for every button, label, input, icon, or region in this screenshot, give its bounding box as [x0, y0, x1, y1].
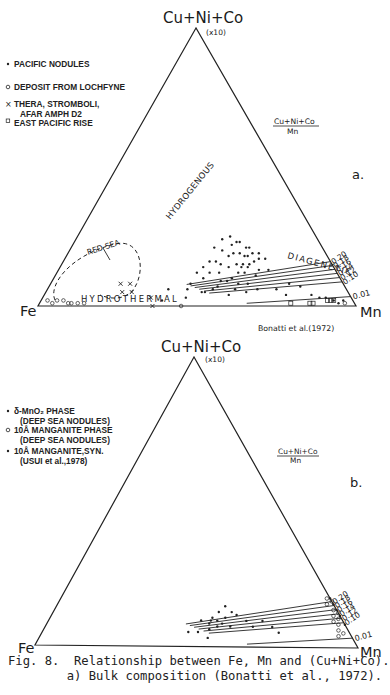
data-point-dot — [218, 611, 220, 613]
data-point-dot — [237, 283, 239, 285]
data-point-dot — [204, 291, 206, 293]
data-point-dot — [271, 626, 273, 628]
data-point-dot — [335, 609, 337, 611]
data-point-dot — [267, 269, 269, 271]
data-point-open-circle — [46, 299, 50, 303]
legend-symbol-open-circle-icon — [6, 85, 10, 89]
ratio-label-den-b: Mn — [290, 456, 301, 465]
data-point-dot — [318, 296, 320, 298]
data-point-dot — [213, 246, 215, 248]
ratio-line-label: 0.01 — [354, 630, 374, 643]
data-point-dot — [247, 266, 249, 268]
data-point-dot — [310, 294, 312, 296]
data-point-dot — [224, 617, 226, 619]
vertex-label-right-a: Mn — [360, 304, 382, 320]
data-point-dot — [218, 271, 220, 273]
data-point-open-circle — [325, 597, 329, 601]
data-point-dot — [251, 252, 253, 254]
data-point-dot — [239, 241, 241, 243]
legend-label-line2: (DEEP SEA NODULES) — [20, 435, 110, 445]
data-point-dot — [227, 255, 229, 257]
data-point-dot — [187, 631, 189, 633]
legend-label: THERA, STROMBOLI, — [14, 99, 99, 109]
data-point-open-circle — [342, 632, 346, 636]
data-point-dot — [245, 620, 247, 622]
data-point-open-circle — [332, 620, 336, 624]
data-point-dot — [208, 622, 210, 624]
legend-label-line2: (DEEP SEA NODULES) — [20, 416, 110, 426]
ratio-line-0-01 — [247, 638, 352, 644]
data-point-dot — [210, 619, 212, 621]
legend-label: 10Å MANGANITE,SYN. — [14, 446, 103, 456]
data-point-dot — [216, 619, 218, 621]
data-point-dot — [332, 603, 334, 605]
figure-caption: Fig. 8. Relationship between Fe, Mn and … — [8, 654, 390, 684]
data-point-dot — [243, 271, 245, 273]
ternary-triangle-b — [35, 357, 358, 648]
data-point-open-circle — [76, 301, 80, 305]
data-point-open-circle — [337, 634, 341, 638]
data-point-dot — [221, 622, 223, 624]
data-point-dot — [256, 288, 258, 290]
data-point-dot — [337, 302, 339, 304]
data-point-dot — [220, 280, 222, 282]
data-point-dot — [258, 252, 260, 254]
data-point-dot — [211, 617, 213, 619]
data-point-dot — [201, 291, 203, 293]
data-point-dot — [339, 615, 341, 617]
data-point-dot — [228, 294, 230, 296]
legend-label-line2: (USUI et al.,1978) — [20, 456, 88, 466]
ratio-label-den-a: Mn — [287, 127, 299, 136]
data-point-open-circle — [62, 299, 66, 303]
data-point-dot — [245, 291, 247, 293]
legend-label: PACIFIC NODULES — [14, 59, 90, 69]
ratio-lines-a: 0.200.180.160.140.120.100.01 — [187, 249, 372, 303]
data-point-dot — [248, 246, 250, 248]
data-point-dot — [255, 274, 257, 276]
data-point-dot — [234, 288, 236, 290]
data-point-open-circle — [51, 301, 55, 305]
figure-canvas: 0.200.180.160.140.120.100.01 Cu+Ni+Co (x… — [0, 0, 390, 695]
data-point-dot — [167, 288, 169, 290]
data-point-dot — [247, 283, 249, 285]
panel-label-a: a. — [352, 167, 364, 182]
legend-label: δ-MnO₂ PHASE — [14, 406, 75, 416]
legend-symbol-cross-icon: × — [5, 100, 12, 109]
data-point-dot — [220, 263, 222, 265]
ratio-line-0-12 — [204, 278, 340, 292]
ratio-label-num-a: Cu+Ni+Co — [274, 117, 315, 126]
data-point-dot — [285, 294, 287, 296]
panel-label-b: b. — [350, 475, 362, 490]
data-point-dot — [299, 285, 301, 287]
data-point-dot — [275, 288, 277, 290]
legend-b: δ-MnO₂ PHASE(DEEP SEA NODULES)10Å MANGAN… — [6, 406, 113, 466]
data-point-cross — [119, 282, 123, 286]
ratio-label-num-b: Cu+Ni+Co — [278, 447, 318, 456]
data-point-dot — [189, 283, 191, 285]
data-point-dot — [247, 255, 249, 257]
legend-a: PACIFIC NODULESDEPOSIT FROM LOCHFYNE×THE… — [5, 59, 126, 128]
data-point-dot — [235, 614, 237, 616]
data-point-dot — [344, 624, 346, 626]
data-point-cross — [128, 282, 132, 286]
data-point-dot — [227, 266, 229, 268]
data-point-dot — [212, 288, 214, 290]
legend-label: 10Å MANGANITE PHASE — [14, 425, 113, 435]
data-point-dot — [258, 258, 260, 260]
data-point-dot — [196, 271, 198, 273]
data-point-dot — [231, 244, 233, 246]
data-point-dot — [208, 260, 210, 262]
data-point-dot — [258, 269, 260, 271]
data-point-dot — [202, 266, 204, 268]
data-point-dot — [215, 260, 217, 262]
data-point-dot — [221, 238, 223, 240]
data-point-dot — [278, 632, 280, 634]
data-point-dot — [202, 277, 204, 279]
legend-symbol-dot-icon — [7, 450, 9, 452]
data-point-dot — [245, 246, 247, 248]
data-point-open-circle — [343, 301, 347, 305]
data-point-dot — [237, 271, 239, 273]
vertex-note-top-b: (x10) — [205, 355, 225, 364]
data-point-dot — [231, 277, 233, 279]
ratio-line-0-18 — [191, 265, 333, 286]
